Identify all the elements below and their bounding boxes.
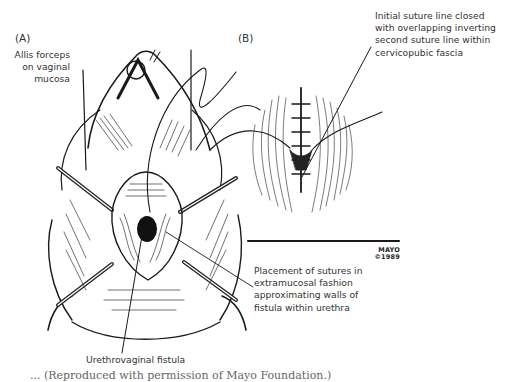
figure-caption-partial: ... (Reproduced with permission of Mayo …: [30, 369, 331, 382]
label-urethrovaginal-fistula: Urethrovaginal fistula: [86, 354, 185, 366]
label-initial-suture-line: Initial suture line closed with overlapp…: [375, 10, 496, 59]
panel-b-tag: (B): [238, 32, 253, 44]
label-allis-forceps: Allis forceps on vaginal mucosa: [14, 49, 70, 86]
panel-a-tag: (A): [15, 32, 30, 44]
label-placement-of-sutures: Placement of sutures in extramucosal fas…: [254, 265, 363, 314]
mayo-credit: MAYO ©1989: [362, 247, 400, 261]
